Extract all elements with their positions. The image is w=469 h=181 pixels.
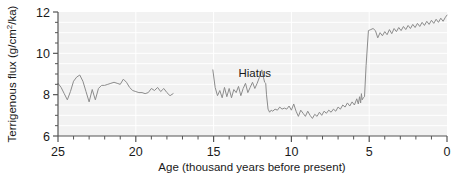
x-tick-label: 20	[129, 145, 143, 159]
x-tick-label: 15	[207, 145, 221, 159]
hiatus-label: Hiatus	[238, 67, 271, 79]
x-tick-label: 25	[51, 145, 65, 159]
terrigenous-flux-chart: 681012 2520151050 Age (thousand years be…	[0, 0, 469, 181]
y-axis-tick-labels: 681012	[36, 6, 50, 144]
x-axis-ticks	[58, 136, 447, 142]
x-axis-title: Age (thousand years before present)	[158, 161, 345, 173]
x-tick-label: 10	[284, 145, 298, 159]
x-tick-label: 5	[366, 145, 373, 159]
y-tick-label: 8	[43, 88, 50, 102]
y-tick-label: 12	[36, 6, 50, 20]
y-axis-title-post: /ka)	[6, 5, 18, 24]
y-tick-label: 10	[36, 47, 50, 61]
svg-text:Terrigenous flux (g/cm2/ka): Terrigenous flux (g/cm2/ka)	[5, 5, 19, 142]
y-axis-ticks	[53, 12, 58, 136]
y-axis-title-pre: Terrigenous flux (g/cm	[6, 29, 18, 142]
x-tick-label: 0	[444, 145, 451, 159]
y-axis-title: Terrigenous flux (g/cm2/ka)	[5, 5, 19, 142]
y-tick-label: 6	[43, 130, 50, 144]
x-axis-tick-labels: 2520151050	[51, 145, 450, 159]
figure-container: 681012 2520151050 Age (thousand years be…	[0, 0, 469, 181]
